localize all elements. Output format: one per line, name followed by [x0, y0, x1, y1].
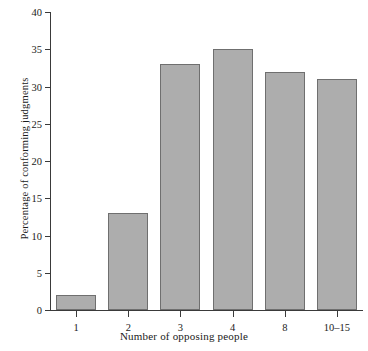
x-axis-title: Number of opposing people [0, 330, 368, 342]
bar [317, 79, 357, 310]
bar-chart: Percentage of conforming judgments 05101… [0, 0, 368, 351]
y-axis-tick-mark [45, 198, 50, 199]
x-axis-tick-mark [180, 311, 181, 317]
bar [108, 213, 148, 310]
y-axis-tick-mark [45, 273, 50, 274]
y-axis-tick-label: 0 [37, 305, 42, 316]
y-axis-tick-mark [45, 310, 50, 311]
y-axis-tick-mark [45, 87, 50, 88]
y-axis-tick-mark [45, 124, 50, 125]
bar [56, 295, 96, 310]
y-axis-tick-mark [45, 236, 50, 237]
y-axis-line [50, 12, 51, 311]
y-axis-tick-mark [45, 49, 50, 50]
y-axis-tick-label: 20 [32, 156, 43, 167]
y-axis-tick-mark [45, 12, 50, 13]
y-axis-tick-mark [45, 161, 50, 162]
x-axis-tick-mark [337, 311, 338, 317]
y-axis-tick-label: 25 [32, 118, 43, 129]
y-axis-tick-label: 35 [32, 44, 43, 55]
x-axis-tick-mark [233, 311, 234, 317]
y-axis-tick-label: 15 [32, 193, 43, 204]
y-axis-tick-label: 5 [37, 267, 42, 278]
y-axis-tick-label: 10 [32, 230, 43, 241]
y-axis-title: Percentage of conforming judgments [19, 34, 30, 284]
x-axis-line [50, 310, 363, 311]
x-axis-tick-mark [128, 311, 129, 317]
y-axis-tick-label: 40 [32, 7, 43, 18]
bar [213, 49, 253, 310]
y-axis-tick-label: 30 [32, 81, 43, 92]
x-axis-tick-mark [76, 311, 77, 317]
plot-area: 0510152025303540 1234810–15 [50, 12, 363, 311]
bar [265, 72, 305, 310]
x-axis-tick-mark [285, 311, 286, 317]
bar [160, 64, 200, 310]
